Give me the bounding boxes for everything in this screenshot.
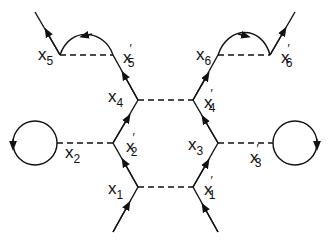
label-x4: x4	[108, 87, 124, 110]
interaction-lines	[57, 55, 273, 187]
label-x2: x2	[65, 143, 81, 166]
fermion-lines	[35, 12, 295, 232]
label-x5p: x′5	[123, 42, 135, 70]
label-x1p: x′1	[204, 174, 216, 202]
vertex-labels: x5 x′5 x6 x′6 x4 x′4 x2 x′2 x3 x′3 x1 x′…	[38, 42, 293, 202]
label-x1: x1	[108, 179, 124, 202]
label-x4p: x′4	[204, 87, 216, 115]
label-x3p: x′3	[250, 142, 262, 170]
right-loop	[273, 121, 317, 165]
label-x6: x6	[196, 45, 212, 68]
label-x6p: x′6	[281, 42, 293, 70]
label-x2p: x′2	[126, 131, 138, 159]
label-x3: x3	[188, 135, 204, 158]
label-x5: x5	[38, 45, 54, 68]
feynman-diagram: x5 x′5 x6 x′6 x4 x′4 x2 x′2 x3 x′3 x1 x′…	[0, 0, 330, 240]
left-loop	[13, 121, 57, 165]
